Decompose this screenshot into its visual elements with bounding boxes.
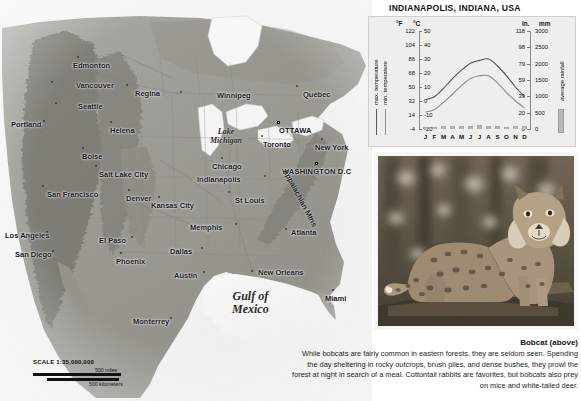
axis-tick-label-fahrenheit: 14 — [395, 112, 415, 118]
caption-block: Bobcat (above) While bobcats are fairly … — [290, 338, 578, 391]
axis-tick-label-fahrenheit: -4 — [395, 126, 415, 132]
month-label: A — [484, 133, 493, 140]
legend-min-temperature-label: min. temperature — [382, 49, 388, 105]
climate-chart-panel[interactable]: °F °C in. mm max. temperature min. tempe… — [368, 16, 576, 147]
axis-tick-label-millimeters: 1000 — [535, 93, 548, 99]
city-marker — [277, 121, 280, 124]
axis-tick-label-fahrenheit: 104 — [395, 42, 415, 48]
bobcat-photo — [378, 156, 574, 326]
axis-tick — [527, 129, 530, 130]
month-label: J — [475, 133, 484, 140]
legend-min-temperature-line — [385, 109, 386, 135]
city-label: Toronto — [263, 141, 291, 149]
month-label: M — [457, 133, 466, 140]
city-label: Salt Lake City — [99, 171, 148, 179]
water-body-label: Gulf of Mexico — [232, 290, 269, 316]
city-label: Monterrey — [133, 318, 169, 326]
city-label: Boise — [82, 153, 102, 161]
caption-title: Bobcat (above) — [290, 338, 578, 347]
axis-header-fahrenheit: °F — [396, 20, 402, 27]
scale-label-kilometers: 500 kilometers — [89, 381, 123, 387]
axis-header-millimeters: mm — [539, 20, 550, 27]
legend-max-temperature-line — [376, 109, 377, 135]
city-label: San Francisco — [47, 191, 98, 199]
axis-header-inches: in. — [522, 20, 529, 27]
water-body-label: Lake Michigan — [210, 128, 242, 146]
city-label: Memphis — [190, 224, 223, 232]
axis-tick-label-millimeters: 500 — [535, 109, 545, 115]
city-label: New York — [315, 144, 349, 152]
city-label: Seattle — [78, 103, 103, 111]
city-label: Winnipeg — [217, 92, 251, 100]
axis-tick-label-millimeters: 0 — [535, 126, 538, 132]
city-label: Austin — [174, 272, 197, 280]
axis-tick-label-fahrenheit: 122 — [395, 28, 415, 34]
month-label: N — [511, 133, 520, 140]
temperature-lines — [421, 31, 529, 129]
climate-plot-area — [421, 31, 529, 129]
city-label: Helena — [110, 127, 135, 135]
month-label: O — [502, 133, 511, 140]
bobcat-photo-frame[interactable] — [374, 152, 578, 330]
axis-line-right — [530, 31, 531, 130]
city-marker — [315, 162, 318, 165]
city-label: Edmonton — [73, 62, 110, 70]
month-label: A — [448, 133, 457, 140]
month-label: D — [520, 133, 529, 140]
map-scale-title: SCALE 1:35,000,000 — [33, 359, 94, 365]
city-label: Los Angeles — [5, 232, 49, 240]
map-scale-bar: SCALE 1:35,000,000 500 miles 500 kilomet… — [33, 359, 94, 386]
city-label: Regina — [135, 90, 160, 98]
city-label: Québec — [303, 91, 331, 99]
legend-rainfall-label: average rainfall — [559, 53, 565, 101]
legend-max-temperature-label: max. temperature — [373, 49, 379, 105]
legend-rainfall-swatch — [558, 109, 564, 133]
scale-bar-miles — [33, 373, 121, 376]
axis-tick-label-fahrenheit: 50 — [395, 84, 415, 90]
city-label: Phoenix — [116, 258, 145, 266]
city-label: Atlanta — [291, 229, 316, 237]
axis-tick-label-fahrenheit: 32 — [395, 98, 415, 104]
axis-tick-label-millimeters: 2000 — [535, 60, 548, 66]
city-label: Denver — [126, 195, 151, 203]
city-label: Chicago — [212, 163, 242, 171]
month-label: F — [430, 133, 439, 140]
axis-header-celsius: °C — [413, 20, 420, 27]
month-label: J — [421, 133, 430, 140]
axis-tick-label-millimeters: 2500 — [535, 44, 548, 50]
city-label: Miami — [325, 295, 346, 303]
axis-tick — [419, 129, 422, 130]
axis-tick-label-millimeters: 1500 — [535, 77, 548, 83]
city-label: El Paso — [99, 237, 126, 245]
month-label: J — [466, 133, 475, 140]
city-label: St Louis — [235, 197, 265, 205]
caption-body: While bobcats are fairly common in easte… — [290, 349, 578, 391]
city-label: Portland — [11, 121, 41, 129]
city-label: New Orleans — [258, 269, 303, 277]
city-label: Dallas — [170, 248, 192, 256]
scale-label-miles: 500 miles — [95, 367, 117, 373]
month-label: M — [439, 133, 448, 140]
axis-tick-label-millimeters: 3000 — [535, 28, 548, 34]
city-label: Vancouver — [76, 82, 114, 90]
axis-tick-label-fahrenheit: 68 — [395, 70, 415, 76]
city-label: Kansas City — [151, 202, 194, 210]
axis-tick-label-fahrenheit: 86 — [395, 56, 415, 62]
city-label: San Diego — [15, 251, 52, 259]
city-label: Indianapolis — [197, 176, 241, 184]
city-label: OTTAWA — [279, 127, 312, 135]
month-label: S — [493, 133, 502, 140]
climate-chart-title: INDIANAPOLIS, INDIANA, USA — [389, 3, 521, 13]
